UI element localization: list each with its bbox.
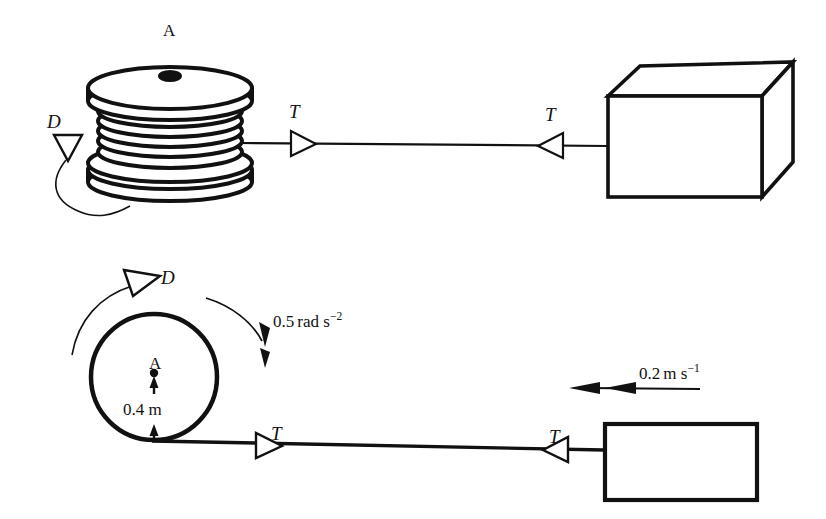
upper-tension-arrowhead-left-icon [291, 131, 316, 156]
upper-spool-label-A: A [163, 22, 175, 39]
angular-accel-arc [206, 298, 262, 341]
upper-tension-label-left-T: T [289, 102, 300, 121]
lower-block-rect [605, 424, 757, 500]
lower-tension-label-left-T: T [271, 424, 282, 443]
angular-accel-arrowhead-outer-icon [259, 322, 270, 347]
upper-tension-label-right-T: T [545, 105, 556, 124]
velocity-exponent: −1 [687, 362, 699, 375]
velocity-label: 0.2m s−1 [639, 363, 700, 382]
lower-cable-group [152, 433, 604, 462]
velocity-unit: m s [663, 364, 687, 383]
lower-drive-arrowhead-icon [124, 270, 160, 296]
velocity-arrow [569, 382, 700, 394]
angular-accel-arrowhead-inner-icon [260, 348, 270, 368]
upper-block-front-face [608, 96, 762, 197]
lower-tension-label-right-T: T [549, 427, 560, 446]
velocity-arrowhead-outer-icon [569, 382, 600, 394]
angular-acceleration-unit: rad s [297, 312, 330, 331]
upper-cable-group [240, 131, 608, 158]
upper-drive-arrowhead-icon [54, 135, 82, 161]
upper-block-3d [608, 62, 793, 197]
lower-cable-line [152, 441, 604, 450]
angular-acceleration-label: 0.5rad s−2 [273, 311, 342, 330]
upper-tension-arrowhead-right-icon [538, 133, 563, 158]
spool-assembly [88, 67, 252, 201]
lower-centre-label-A: A [149, 355, 161, 372]
spool-axle-hole [159, 71, 181, 81]
diagram-svg [0, 0, 826, 519]
upper-drive-label-D: D [47, 112, 61, 131]
lower-drive-label-D: D [161, 268, 175, 287]
velocity-arrowhead-inner-icon [605, 382, 636, 394]
radius-dimension-label: 0.4 m [123, 401, 162, 418]
angular-acceleration-exponent: −2 [330, 310, 342, 323]
figure-canvas: A D T T D A 0.4 m 0.5rad s−2 0.2m s−1 T … [0, 0, 826, 519]
velocity-value: 0.2 [639, 364, 660, 383]
velocity-shaft [586, 388, 700, 389]
angular-acceleration-value: 0.5 [273, 312, 294, 331]
